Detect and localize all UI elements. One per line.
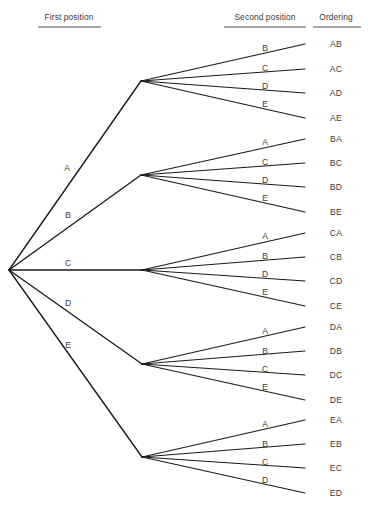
- column-header-first-position: First position: [45, 12, 94, 22]
- second-position-label-ec: C: [262, 457, 268, 467]
- tree-diagram: First positionSecond positionOrdering AB…: [0, 0, 368, 506]
- branch-line-second-bc: [141, 163, 305, 175]
- second-position-label-de: E: [262, 382, 268, 392]
- second-position-label-bd: D: [262, 175, 268, 185]
- second-position-label-dc: C: [262, 364, 268, 374]
- branch-line-second-db: [142, 351, 305, 364]
- branch-line-second-cb: [142, 257, 305, 270]
- column-header-second-position: Second position: [234, 12, 295, 22]
- ordering-label-ad: AD: [330, 88, 342, 98]
- ordering-label-ea: EA: [330, 415, 342, 425]
- branch-line-second-ca: [142, 233, 305, 270]
- ordering-label-bc: BC: [330, 158, 342, 168]
- first-position-label-b: B: [65, 210, 71, 220]
- first-position-label-d: D: [65, 298, 71, 308]
- ordering-label-ab: AB: [330, 39, 342, 49]
- ordering-label-be: BE: [330, 207, 342, 217]
- ordering-label-dc: DC: [330, 370, 343, 380]
- ordering-label-ca: CA: [330, 228, 342, 238]
- second-position-label-ed: D: [262, 475, 268, 485]
- ordering-label-ce: CE: [330, 301, 342, 311]
- branch-line-second-ba: [141, 139, 305, 175]
- ordering-label-cb: CB: [330, 252, 342, 262]
- ordering-label-eb: EB: [330, 439, 342, 449]
- ordering-label-ed: ED: [330, 488, 342, 498]
- ordering-label-ac: AC: [330, 64, 342, 74]
- second-position-label-ad: D: [262, 81, 268, 91]
- first-position-label-a: A: [64, 163, 70, 173]
- second-position-label-ab: B: [262, 43, 268, 53]
- branch-line-second-eb: [142, 444, 305, 457]
- tree-diagram-canvas: First positionSecond positionOrdering AB…: [0, 0, 368, 506]
- second-position-label-cd: D: [262, 269, 268, 279]
- ordering-label-ba: BA: [330, 134, 342, 144]
- second-position-label-db: B: [262, 346, 268, 356]
- column-headers: First positionSecond positionOrdering: [38, 12, 361, 27]
- branch-line-first-d: [9, 270, 142, 364]
- branch-line-second-ea: [142, 420, 305, 457]
- second-position-label-ca: A: [262, 231, 268, 241]
- ordering-label-ae: AE: [330, 113, 342, 123]
- branch-line-first-b: [9, 175, 141, 270]
- second-position-label-ac: C: [262, 63, 268, 73]
- second-position-label-ae: E: [262, 99, 268, 109]
- second-position-label-ba: A: [262, 137, 268, 147]
- branch-lines: [9, 44, 305, 493]
- second-position-label-ea: A: [262, 419, 268, 429]
- ordering-label-cd: CD: [330, 276, 343, 286]
- branch-line-second-da: [142, 327, 305, 364]
- second-position-label-ce: E: [262, 287, 268, 297]
- branch-line-first-a: [9, 81, 141, 270]
- second-position-label-da: A: [262, 326, 268, 336]
- ordering-label-db: DB: [330, 346, 342, 356]
- second-position-label-bc: C: [262, 157, 268, 167]
- ordering-label-ec: EC: [330, 463, 342, 473]
- first-position-label-e: E: [65, 340, 71, 350]
- second-position-label-cb: B: [262, 251, 268, 261]
- column-header-ordering: Ordering: [319, 12, 353, 22]
- first-position-label-c: C: [65, 258, 71, 268]
- ordering-label-bd: BD: [330, 182, 342, 192]
- second-position-label-eb: B: [262, 439, 268, 449]
- outcome-labels: ABACADAEBABCBDBECACBCDCEDADBDCDEEAEBECED: [330, 39, 343, 498]
- second-position-label-be: E: [262, 193, 268, 203]
- ordering-label-de: DE: [330, 395, 342, 405]
- ordering-label-da: DA: [330, 322, 342, 332]
- branch-line-first-e: [9, 270, 142, 457]
